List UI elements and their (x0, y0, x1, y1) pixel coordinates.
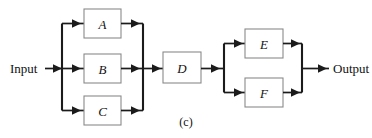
arrowhead-E-out (291, 39, 300, 48)
arrowhead-output (318, 64, 327, 73)
block-E-label: E (259, 37, 268, 52)
arrowhead-to-F (234, 88, 243, 97)
arrowhead-to-D (152, 64, 161, 73)
block-C-label: C (98, 104, 107, 119)
figure-caption: (c) (179, 115, 192, 129)
block-D-label: D (176, 61, 187, 76)
arrowhead-F-out (291, 88, 300, 97)
arrowhead-C-out (131, 106, 140, 115)
arrowhead-to-B (72, 64, 81, 73)
block-B-label: B (99, 62, 107, 77)
block-F-label: F (259, 86, 269, 101)
output-label: Output (333, 61, 370, 76)
block-A-label: A (98, 17, 107, 32)
arrowhead-to-A (72, 19, 81, 28)
arrowhead-A-out (131, 19, 140, 28)
arrowhead-to-E (234, 39, 243, 48)
block-diagram-figure: Input A B C (0, 0, 372, 138)
arrowhead-input (53, 64, 62, 73)
arrowhead-B-out (131, 64, 140, 73)
input-label: Input (10, 61, 38, 76)
diagram-canvas: Input A B C (0, 0, 372, 138)
arrowhead-D-out (211, 64, 220, 73)
arrowhead-to-C (72, 106, 81, 115)
